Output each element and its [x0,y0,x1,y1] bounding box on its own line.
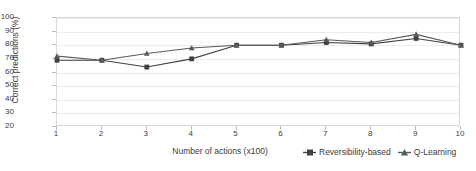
x-axis-tick-label: 8 [360,130,380,138]
legend-item-q-learning: Q-Learning [398,148,457,157]
x-axis-tick-label: 3 [136,130,156,138]
chart-legend: Reversibility-based Q-Learning [303,148,456,157]
y-axis-tick-label: 50 [0,81,14,89]
data-series-layer [57,18,461,127]
legend-label-reversibility-based: Reversibility-based [319,148,391,157]
x-axis-tick-label: 10 [450,130,470,138]
plot-area [56,17,460,126]
y-axis-tick-label: 80 [0,40,14,48]
data-point-marker [55,58,60,63]
series-line-q-learning [57,34,461,60]
y-axis-tick-label: 20 [0,122,14,130]
square-marker-icon [303,148,316,157]
y-axis-tick-label: 40 [0,95,14,103]
legend-item-reversibility-based: Reversibility-based [303,148,391,157]
x-axis-tick-label: 5 [226,130,246,138]
chart-container: Correct predictions (%) 2030405060708090… [0,0,476,171]
y-axis-tick-label: 60 [0,68,14,76]
x-axis-tick-label: 1 [46,130,66,138]
y-axis-tick-label: 70 [0,54,14,62]
y-axis-tick-label: 30 [0,108,14,116]
data-point-marker [189,56,194,61]
x-axis-tick-label: 7 [315,130,335,138]
x-axis-title: Number of actions (x100) [120,146,320,156]
x-axis-tick-label: 9 [405,130,425,138]
x-axis-tick-label: 2 [91,130,111,138]
data-point-marker [144,65,149,70]
series-line-reversibility-based [57,38,461,67]
triangle-marker-icon [398,148,411,157]
data-point-marker [413,31,419,36]
y-axis-tick-label: 90 [0,27,14,35]
data-point-marker [414,36,419,41]
x-axis-tick-label: 4 [181,130,201,138]
legend-label-q-learning: Q-Learning [414,148,457,157]
x-axis-tick-label: 6 [270,130,290,138]
y-axis-tick-label: 100 [0,13,14,21]
